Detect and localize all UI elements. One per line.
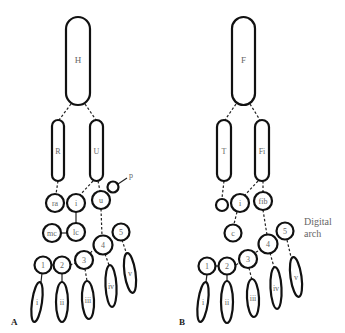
label-f: F [241, 55, 246, 65]
limb-diagram: H R U ra i u p mc lc 1 2 3 4 5 i ii [0, 0, 345, 333]
label-fi: Fi [259, 147, 266, 156]
annotation-arch: arch [304, 228, 321, 239]
label-dc2: 2 [60, 261, 64, 270]
label-dc1: 1 [41, 261, 45, 270]
label-mc: mc [47, 229, 57, 238]
panel-label-a: A [11, 317, 18, 327]
label-digit-b-iii: iii [250, 294, 257, 303]
label-dt5: 5 [283, 227, 287, 236]
label-h: H [75, 55, 82, 65]
label-dt1: 1 [205, 262, 209, 271]
label-digit-b-iv: iv [273, 284, 279, 293]
label-t: T [222, 147, 227, 156]
label-ra: ra [52, 199, 59, 208]
label-u-carpal: u [99, 196, 103, 205]
annotation-digital: Digital [304, 216, 332, 227]
label-dt3: 3 [246, 255, 250, 264]
label-u: U [94, 147, 100, 156]
label-digit-b-v: v [294, 273, 298, 282]
panel-label-b: B [179, 317, 185, 327]
bone-small-tarsal [216, 199, 228, 211]
bone-p [108, 182, 119, 193]
label-digit-v: v [128, 269, 132, 278]
label-lc: lc [73, 228, 79, 237]
panel-b: F T Fi i fib c 1 2 3 4 5 i ii iii iv v D… [179, 17, 332, 327]
label-digit-ii: ii [60, 298, 65, 307]
label-dt4: 4 [266, 240, 270, 249]
panel-a: H R U ra i u p mc lc 1 2 3 4 5 i ii [11, 17, 138, 327]
label-c: c [231, 229, 235, 238]
label-dc5: 5 [119, 228, 123, 237]
label-digit-iv: iv [108, 282, 114, 291]
label-fib: fib [259, 197, 268, 206]
label-digit-b-ii: ii [225, 298, 230, 307]
label-dc4: 4 [101, 241, 105, 250]
label-r: R [55, 147, 61, 156]
label-p: p [129, 171, 133, 180]
label-dc3: 3 [82, 256, 86, 265]
label-dt2: 2 [225, 262, 229, 271]
label-digit-iii: iii [85, 296, 92, 305]
